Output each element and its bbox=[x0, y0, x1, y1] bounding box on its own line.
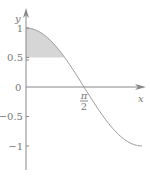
cosine-graph: y x 0 10.5−0.5−1 π2 bbox=[0, 0, 150, 178]
y-tick-label: 1 bbox=[17, 23, 23, 34]
x-axis-label: x bbox=[138, 93, 144, 104]
x-tick-label-denominator: 2 bbox=[81, 101, 87, 112]
y-tick-label: −0.5 bbox=[0, 111, 23, 122]
shaded-region bbox=[26, 28, 65, 58]
y-tick-label: −1 bbox=[8, 141, 23, 152]
graph-svg: y x 0 10.5−0.5−1 π2 bbox=[0, 0, 150, 178]
y-tick-label: 0.5 bbox=[7, 52, 23, 63]
x-tick-label-numerator: π bbox=[80, 90, 88, 101]
origin-label: 0 bbox=[15, 82, 21, 93]
